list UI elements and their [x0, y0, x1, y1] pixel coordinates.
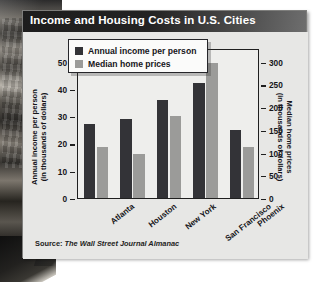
- legend-label: Annual income per person: [88, 46, 196, 56]
- tick-label-left-50: 50: [58, 59, 67, 67]
- bar-income-atlanta: [84, 124, 96, 198]
- legend-item-home-prices: Median home prices: [75, 58, 171, 70]
- tick-mark-left-0: [70, 199, 75, 200]
- tick-label-left-30: 30: [58, 113, 67, 121]
- tick-mark-left-40: [70, 90, 75, 91]
- tick-mark-right-50: [261, 176, 266, 177]
- bar-income-san-francisco: [193, 83, 205, 198]
- bar-home-price-new-york: [170, 116, 182, 198]
- tick-mark-left-20: [70, 144, 75, 145]
- legend-swatch-icon: [75, 47, 83, 55]
- legend-swatch-icon: [75, 60, 83, 68]
- tick-label-left-40: 40: [58, 86, 67, 94]
- tick-mark-left-10: [70, 172, 75, 173]
- tick-label-left-0: 0: [62, 195, 67, 203]
- x-label-new-york: New York: [184, 202, 218, 231]
- y-axis-left-title-line1: Annual income per person: [30, 78, 39, 196]
- tick-label-right-50: 50: [269, 172, 278, 180]
- chart-body: Annual income per person (in thousands o…: [23, 32, 308, 259]
- chart-card: Income and Housing Costs in U.S. Cities …: [22, 10, 307, 258]
- bar-home-price-houston: [133, 154, 145, 198]
- bar-home-price-san-francisco: [206, 63, 218, 198]
- chart-title-bar: Income and Housing Costs in U.S. Cities: [23, 11, 306, 32]
- tick-mark-right-200: [261, 108, 266, 109]
- tick-mark-right-150: [261, 131, 266, 132]
- legend-label: Median home prices: [88, 59, 171, 69]
- chart-legend: Annual income per personMedian home pric…: [68, 39, 208, 73]
- x-label-houston: Houston: [147, 202, 178, 229]
- bar-income-houston: [120, 119, 132, 198]
- tick-label-right-250: 250: [269, 81, 283, 89]
- tick-label-right-150: 150: [269, 127, 283, 135]
- bar-income-new-york: [157, 100, 169, 198]
- bar-home-price-atlanta: [97, 147, 109, 198]
- tick-label-right-0: 0: [269, 195, 274, 203]
- bar-home-price-phoenix: [243, 147, 255, 198]
- tick-mark-right-100: [261, 154, 266, 155]
- legend-item-income: Annual income per person: [75, 45, 196, 57]
- x-label-atlanta: Atlanta: [109, 202, 136, 226]
- bar-income-phoenix: [230, 130, 242, 198]
- tick-mark-left-30: [70, 117, 75, 118]
- tick-label-right-100: 100: [269, 150, 283, 158]
- tick-label-left-20: 20: [58, 140, 67, 148]
- source-prefix: Source:: [35, 239, 63, 248]
- tick-label-right-300: 300: [269, 59, 283, 67]
- page-title: Income and Housing Costs in U.S. Cities: [30, 14, 256, 26]
- y-axis-right-scale: 300250200150100500: [261, 49, 293, 199]
- tick-mark-right-0: [261, 199, 266, 200]
- tick-label-left-10: 10: [58, 168, 67, 176]
- source-note: Source: The Wall Street Journal Almanac: [35, 239, 179, 248]
- tick-label-right-200: 200: [269, 104, 283, 112]
- tick-mark-right-250: [261, 85, 266, 86]
- source-name: The Wall Street Journal Almanac: [65, 239, 180, 248]
- tick-mark-right-300: [261, 63, 266, 64]
